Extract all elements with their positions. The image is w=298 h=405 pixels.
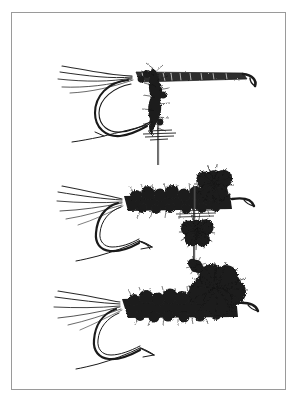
fly-illustrations	[0, 0, 298, 405]
hook-eye	[232, 198, 254, 206]
tail-fibers-icon	[58, 66, 133, 93]
wing-clump-lower	[179, 214, 215, 250]
post-base-hackle	[143, 130, 176, 140]
illustration-plate	[0, 0, 298, 405]
post-base-hackle	[176, 210, 216, 217]
fly-figure-dubbed-body-wing-clump-fly	[54, 262, 258, 369]
hook-bend-and-point	[72, 80, 150, 142]
fly-figure-dubbed-body-parachute-fly	[57, 164, 254, 276]
hook-eye	[236, 303, 258, 311]
fly-figure-extended-body-parachute-mayfly	[58, 63, 255, 165]
